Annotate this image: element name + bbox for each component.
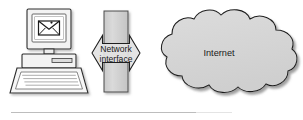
internet-cloud-label: Internet (203, 48, 235, 58)
drive-slot (52, 59, 72, 63)
internet-cloud: Internet (161, 10, 297, 93)
keyboard-key-area (16, 72, 83, 89)
network-diagram: Network interface Internet (0, 0, 303, 120)
monitor-neck (44, 49, 54, 54)
figure-canvas: Network interface Internet (0, 0, 303, 120)
network-interface-label-line1: Network (100, 44, 132, 54)
client-computer (10, 9, 88, 93)
network-interface-label-line2: interface (100, 54, 133, 64)
network-interface: Network interface (92, 11, 140, 92)
envelope-icon (39, 21, 60, 35)
